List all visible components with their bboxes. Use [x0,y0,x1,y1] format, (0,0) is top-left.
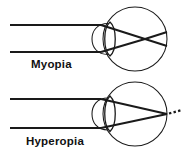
eye-diagram-svg: Myopia Hyperopia [0,0,182,157]
hyperopia-label: Hyperopia [26,135,84,147]
myopia-label: Myopia [31,58,72,70]
refractive-errors-figure: Myopia Hyperopia [0,0,182,157]
figure-background [0,0,182,157]
